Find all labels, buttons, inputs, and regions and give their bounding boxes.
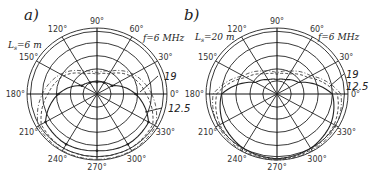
angle-tick-label: 30° xyxy=(339,53,353,62)
angle-tick-label: 30° xyxy=(158,53,172,62)
polar-plot-a: 0°30°60°90°120°150°180°210°240°270°300°3… xyxy=(6,6,191,172)
data-marker xyxy=(81,84,84,87)
angle-tick-label: 60° xyxy=(129,25,143,34)
data-marker xyxy=(44,121,47,124)
angle-tick-label: 180° xyxy=(6,90,25,99)
angle-tick-label: 240° xyxy=(227,155,246,164)
data-marker xyxy=(147,121,150,124)
length-annotation: Ls=6 m xyxy=(7,40,42,51)
curve-level-label: 12.5 xyxy=(346,81,368,92)
angle-tick-label: 0° xyxy=(170,90,179,99)
angle-tick-label: 210° xyxy=(198,128,217,137)
data-marker xyxy=(111,84,114,87)
angle-tick-label: 270° xyxy=(267,163,286,172)
angle-tick-label: 300° xyxy=(127,155,146,164)
data-marker xyxy=(127,143,130,146)
data-marker xyxy=(103,81,106,84)
panel-label: b) xyxy=(184,6,200,24)
panel-label: a) xyxy=(24,6,39,24)
frequency-annotation: f=6 MHz xyxy=(317,32,360,42)
curve-level-label: 12.5 xyxy=(168,103,190,114)
data-marker xyxy=(65,143,68,146)
angle-tick-label: 90° xyxy=(90,17,104,26)
angle-tick-label: 150° xyxy=(19,53,38,62)
angle-tick-label: 120° xyxy=(48,25,67,34)
data-marker xyxy=(89,81,92,84)
frequency-annotation: f=6 MHz xyxy=(142,33,185,43)
data-marker xyxy=(96,81,99,84)
data-marker xyxy=(96,149,99,152)
angle-tick-label: 300° xyxy=(307,155,326,164)
angle-tick-label: 330° xyxy=(337,128,356,137)
angle-tick-label: 150° xyxy=(198,53,217,62)
curve-level-label: 19 xyxy=(346,69,359,80)
angle-tick-label: 330° xyxy=(156,128,175,137)
polar-plot-b: 0°30°60°90°120°150°180°210°240°270°300°3… xyxy=(184,6,368,172)
leader-line xyxy=(330,74,344,86)
angle-tick-label: 240° xyxy=(48,155,67,164)
polar-figure: 0°30°60°90°120°150°180°210°240°270°300°3… xyxy=(0,0,376,177)
data-marker xyxy=(134,93,137,96)
leader-line xyxy=(145,108,162,112)
curve-level-label: 19 xyxy=(164,71,177,82)
data-marker xyxy=(57,93,60,96)
angle-tick-label: 270° xyxy=(87,163,106,172)
angle-tick-label: 210° xyxy=(19,128,38,137)
angle-tick-label: 90° xyxy=(270,17,284,26)
angle-tick-label: 180° xyxy=(185,90,204,99)
length-annotation: Ls=20 m xyxy=(194,32,234,43)
